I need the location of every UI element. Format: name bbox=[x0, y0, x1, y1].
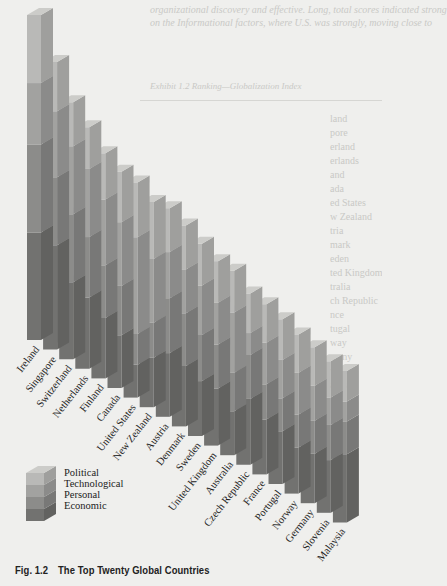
segment-personal-side bbox=[347, 414, 359, 454]
bar-ireland bbox=[27, 8, 53, 340]
legend-item-economic: Economic bbox=[64, 500, 107, 511]
segment-personal-side bbox=[218, 338, 230, 389]
segment-technological-side bbox=[218, 296, 230, 345]
segment-technological-side bbox=[122, 215, 134, 286]
segment-personal-front bbox=[27, 145, 41, 233]
segment-political-side bbox=[234, 264, 246, 313]
segment-personal-side bbox=[299, 408, 311, 448]
segment-economic-side bbox=[73, 275, 85, 359]
segment-personal-side bbox=[202, 328, 214, 381]
segment-technological-side bbox=[138, 230, 150, 334]
legend-swatch-technological bbox=[26, 485, 44, 497]
legend-item-personal: Personal bbox=[64, 489, 100, 500]
segment-technological-side bbox=[89, 162, 101, 237]
segment-economic-side bbox=[138, 358, 150, 398]
segment-economic-side bbox=[170, 346, 182, 417]
segment-political-side bbox=[73, 95, 85, 146]
segment-economic-side bbox=[202, 374, 214, 436]
segment-personal-side bbox=[57, 170, 69, 245]
segment-economic-front bbox=[27, 232, 41, 340]
segment-economic-side bbox=[89, 290, 101, 368]
legend-swatch-political bbox=[26, 473, 44, 485]
segment-economic-side bbox=[122, 328, 134, 388]
segment-technological-side bbox=[170, 245, 182, 298]
segment-personal-side bbox=[73, 207, 85, 282]
segment-political-side bbox=[218, 254, 230, 303]
segment-economic-side bbox=[283, 424, 295, 484]
segment-economic-side bbox=[41, 225, 53, 340]
segment-political-side bbox=[283, 312, 295, 360]
segment-economic-side bbox=[105, 311, 117, 378]
segment-technological-side bbox=[41, 76, 53, 144]
segment-political-side bbox=[122, 165, 134, 223]
segment-political-side bbox=[266, 297, 278, 342]
segment-political-side bbox=[89, 120, 101, 169]
segment-political-side bbox=[105, 146, 117, 199]
legend-swatch-block bbox=[24, 465, 64, 525]
segment-personal-side bbox=[234, 366, 246, 411]
segment-personal-side bbox=[105, 258, 117, 318]
segment-political-side bbox=[186, 218, 198, 269]
segment-personal-side bbox=[41, 138, 53, 233]
figure-caption: Fig. 1.2The Top Twenty Global Countries bbox=[15, 564, 209, 576]
segment-economic-side bbox=[347, 447, 359, 522]
figure-title: The Top Twenty Global Countries bbox=[58, 564, 210, 576]
segment-economic-side bbox=[234, 404, 246, 455]
segment-personal-side bbox=[186, 306, 198, 366]
segment-technological-side bbox=[73, 139, 85, 214]
segment-personal-side bbox=[315, 414, 327, 454]
segment-economic-side bbox=[315, 447, 327, 503]
segment-technological-side bbox=[234, 305, 246, 372]
segment-technological-side bbox=[154, 252, 166, 323]
segment-technological-side bbox=[283, 353, 295, 398]
segment-personal-side bbox=[331, 418, 343, 460]
segment-economic-side bbox=[154, 351, 166, 407]
segment-economic-side bbox=[331, 453, 343, 513]
segment-technological-side bbox=[299, 366, 311, 415]
segment-political-side bbox=[250, 287, 262, 334]
segment-personal-side bbox=[170, 291, 182, 353]
segment-political-side bbox=[331, 354, 343, 397]
segment-technological-front bbox=[27, 83, 41, 144]
segment-political-side bbox=[41, 8, 53, 83]
segment-technological-side bbox=[186, 262, 198, 313]
legend-item-technological: Technological bbox=[64, 478, 123, 489]
segment-political-side bbox=[154, 195, 166, 259]
segment-technological-side bbox=[266, 336, 278, 385]
segment-political-side bbox=[138, 175, 150, 237]
legend-swatch-personal bbox=[26, 497, 44, 509]
segment-personal-side bbox=[283, 391, 295, 431]
segment-political-front bbox=[27, 15, 41, 83]
segment-political-side bbox=[57, 55, 69, 111]
segment-political-side bbox=[299, 327, 311, 372]
segment-personal-side bbox=[266, 377, 278, 419]
segment-economic-side bbox=[57, 238, 69, 349]
segment-economic-side bbox=[266, 413, 278, 475]
segment-economic-side bbox=[299, 440, 311, 493]
legend-item-political: Political bbox=[64, 467, 99, 478]
legend-swatch-economic bbox=[26, 509, 44, 521]
segment-political-side bbox=[202, 237, 214, 286]
segment-economic-side bbox=[250, 392, 262, 465]
segment-personal-side bbox=[89, 230, 101, 297]
segment-economic-side bbox=[218, 382, 230, 446]
segment-technological-side bbox=[315, 379, 327, 421]
segment-personal-side bbox=[154, 316, 166, 358]
segment-personal-side bbox=[122, 279, 134, 335]
segment-technological-side bbox=[57, 104, 69, 177]
segment-technological-side bbox=[202, 279, 214, 335]
segment-political-side bbox=[170, 201, 182, 252]
segment-economic-side bbox=[186, 359, 198, 426]
segment-personal-side bbox=[250, 348, 262, 399]
figure-number: Fig. 1.2 bbox=[15, 564, 48, 576]
segment-political-side bbox=[315, 340, 327, 385]
segment-technological-side bbox=[105, 192, 117, 265]
